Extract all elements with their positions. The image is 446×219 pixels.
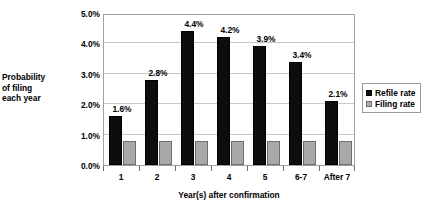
x-axis-tick-label: 1: [103, 172, 139, 182]
x-axis-tick-mark: [354, 166, 355, 171]
bar-filing-rate[interactable]: [159, 141, 172, 165]
y-axis-tick-labels: 0.0%1.0%2.0%3.0%4.0%5.0%: [64, 10, 100, 170]
bar-group: 2.1%: [320, 15, 356, 165]
x-axis-tick-mark: [139, 166, 140, 171]
bar-value-label: 4.4%: [176, 20, 212, 29]
legend-label-refile-rate: Refile rate: [375, 88, 416, 98]
plot-area: 1.6%2.8%4.4%4.2%3.9%3.4%2.1%: [103, 14, 355, 166]
x-axis-tick-label: 4: [211, 172, 247, 182]
bar-refile-rate[interactable]: [181, 31, 194, 165]
bar-refile-rate[interactable]: [325, 101, 338, 165]
x-axis-tick-label: 3: [175, 172, 211, 182]
bar-value-label: 3.9%: [248, 35, 284, 44]
x-axis-tick-label: 5: [247, 172, 283, 182]
y-axis-title-line-1: Probability: [2, 72, 64, 83]
y-axis-title-line-3: each year: [2, 93, 64, 104]
x-axis-title: Year(s) after confirmation: [103, 190, 355, 200]
bar-filing-rate[interactable]: [123, 141, 136, 165]
bar-value-label: 3.4%: [284, 51, 320, 60]
bar-filing-rate[interactable]: [303, 141, 316, 165]
x-axis-tick-mark: [175, 166, 176, 171]
bar-filing-rate[interactable]: [339, 141, 352, 165]
x-axis-ticks: [103, 166, 355, 171]
x-axis-tick-mark: [247, 166, 248, 171]
bar-group: 4.4%: [176, 15, 212, 165]
bar-refile-rate[interactable]: [217, 37, 230, 165]
bar-value-label: 4.2%: [212, 26, 248, 35]
bar-chart-figure: Probability of filing each year 0.0%1.0%…: [0, 0, 446, 219]
y-axis-title-line-2: of filing: [2, 83, 64, 94]
bar-group: 3.4%: [284, 15, 320, 165]
bar-filing-rate[interactable]: [195, 141, 208, 165]
y-axis-tick-label: 1.0%: [64, 131, 100, 140]
x-axis-tick-labels: 123456-7After 7: [103, 172, 355, 186]
x-axis-tick-label: After 7: [319, 172, 355, 182]
bar-filing-rate[interactable]: [231, 141, 244, 165]
bar-group: 4.2%: [212, 15, 248, 165]
bar-group: 3.9%: [248, 15, 284, 165]
bar-refile-rate[interactable]: [253, 46, 266, 165]
bar-filing-rate[interactable]: [267, 141, 280, 165]
bar-refile-rate[interactable]: [109, 116, 122, 165]
x-axis-tick-label: 6-7: [283, 172, 319, 182]
bar-refile-rate[interactable]: [289, 62, 302, 165]
bar-group: 1.6%: [104, 15, 140, 165]
y-axis-tick-label: 3.0%: [64, 70, 100, 79]
legend-label-filing-rate: Filing rate: [375, 99, 415, 109]
bar-value-label: 2.1%: [320, 90, 356, 99]
chart-legend: Refile rate Filing rate: [362, 83, 421, 113]
x-axis-tick-mark: [103, 166, 104, 171]
bars-layer: 1.6%2.8%4.4%4.2%3.9%3.4%2.1%: [104, 15, 354, 165]
bar-group: 2.8%: [140, 15, 176, 165]
y-axis-title: Probability of filing each year: [2, 72, 64, 104]
bar-value-label: 1.6%: [104, 105, 140, 114]
y-axis-tick-label: 4.0%: [64, 40, 100, 49]
legend-entry-refile-rate[interactable]: Refile rate: [366, 87, 416, 98]
legend-swatch-filing-rate-icon: [366, 101, 372, 107]
x-axis-tick-mark: [319, 166, 320, 171]
y-axis-tick-label: 2.0%: [64, 101, 100, 110]
y-axis-tick-label: 5.0%: [64, 10, 100, 19]
bar-value-label: 2.8%: [140, 69, 176, 78]
bar-refile-rate[interactable]: [145, 80, 158, 165]
x-axis-tick-mark: [283, 166, 284, 171]
x-axis-tick-mark: [211, 166, 212, 171]
x-axis-tick-label: 2: [139, 172, 175, 182]
legend-swatch-refile-rate-icon: [366, 90, 372, 96]
y-axis-tick-label: 0.0%: [64, 162, 100, 171]
legend-entry-filing-rate[interactable]: Filing rate: [366, 98, 416, 109]
